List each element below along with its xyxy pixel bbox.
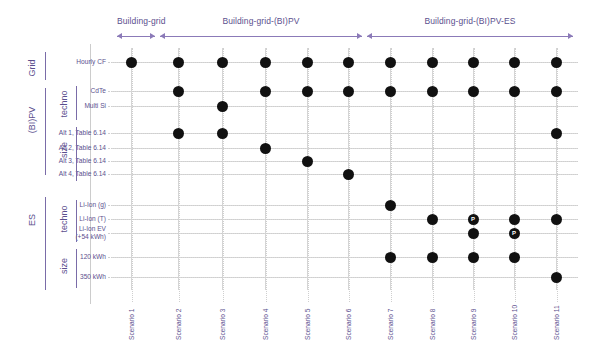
matrix-marker-dot — [385, 200, 396, 211]
row-label: CdTe — [0, 87, 106, 95]
column-label-scenario-7: Scenario 7 — [387, 308, 394, 340]
axis-sub-bipv-size: size — [59, 142, 69, 158]
axis-sub-rule — [76, 249, 77, 288]
matrix-marker-dot — [551, 214, 562, 225]
row-label: Hourly CF — [0, 58, 106, 66]
axis-sub-es-size: size — [59, 258, 69, 274]
scenario-matrix-figure: Building-gridBuilding-grid-(BI)PVBuildin… — [0, 0, 590, 347]
axis-sub-es-techno: techno — [59, 205, 69, 232]
matrix-marker-dot — [509, 252, 520, 263]
axis-group-rule — [45, 197, 46, 290]
axis-sub-rule — [76, 127, 77, 181]
axis-group-bipv: (BI)PV — [27, 107, 37, 134]
axis-sub-bipv-techno: techno — [59, 90, 69, 117]
column-label-scenario-5: Scenario 5 — [304, 308, 311, 340]
matrix-marker-p: P — [509, 228, 520, 239]
matrix-marker-dot — [427, 214, 438, 225]
matrix-marker-dot — [343, 86, 354, 97]
header-group-label-2: Building-grid-(BI)PV — [160, 16, 362, 26]
row-label: Alt 3, Table 6.14 — [0, 157, 106, 165]
column-label-scenario-11: Scenario 11 — [553, 305, 560, 340]
header-group-label-3: Building-grid-(BI)PV-ES — [367, 16, 573, 26]
matrix-marker-dot — [217, 128, 228, 139]
matrix-marker-dot — [302, 57, 313, 68]
row-label: Alt 2, Table 6.14 — [0, 144, 106, 152]
matrix-marker-p: P — [468, 214, 479, 225]
matrix-marker-dot — [217, 101, 228, 112]
column-label-scenario-6: Scenario 6 — [345, 308, 352, 340]
matrix-marker-dot — [217, 57, 228, 68]
matrix-marker-dot — [343, 169, 354, 180]
axis-group-rule — [45, 88, 46, 175]
axis-sub-rule — [76, 200, 77, 242]
header-group-label-1: Building-grid — [117, 16, 155, 26]
matrix-marker-dot — [260, 86, 271, 97]
matrix-marker-dot — [509, 86, 520, 97]
matrix-marker-dot — [260, 57, 271, 68]
matrix-marker-dot — [302, 156, 313, 167]
matrix-marker-dot — [385, 86, 396, 97]
matrix-marker-dot — [385, 252, 396, 263]
row-label: Li-Ion EV(+54 kWh) — [0, 225, 106, 241]
header-range-arrow-3 — [367, 36, 573, 37]
row-label: Alt 1, Table 6.14 — [0, 129, 106, 137]
matrix-marker-dot — [468, 228, 479, 239]
column-label-scenario-9: Scenario 9 — [470, 308, 477, 340]
column-label-scenario-8: Scenario 8 — [429, 308, 436, 340]
matrix-marker-dot — [427, 86, 438, 97]
matrix-marker-dot — [551, 57, 562, 68]
axis-group-rule — [45, 52, 46, 80]
row-label: Li-Ion (g) — [0, 201, 106, 209]
row-label: Li-Ion (T) — [0, 215, 106, 223]
matrix-marker-dot — [126, 57, 137, 68]
column-label-scenario-10: Scenario 10 — [511, 305, 518, 340]
matrix-marker-dot — [468, 86, 479, 97]
column-label-scenario-3: Scenario 3 — [219, 308, 226, 340]
row-label: 120 kWh — [0, 253, 106, 261]
matrix-marker-dot — [302, 86, 313, 97]
matrix-marker-dot — [551, 128, 562, 139]
axis-group-es: ES — [27, 214, 37, 226]
matrix-marker-dot — [260, 143, 271, 154]
matrix-marker-dot — [468, 57, 479, 68]
header-range-arrow-2 — [160, 36, 362, 37]
matrix-marker-dot — [173, 57, 184, 68]
matrix-marker-dot — [173, 128, 184, 139]
column-gridline-dotted — [132, 48, 133, 302]
matrix-marker-dot — [551, 272, 562, 283]
matrix-marker-dot — [343, 57, 354, 68]
header-range-arrow-1 — [117, 36, 155, 37]
column-label-scenario-1: Scenario 1 — [128, 308, 135, 340]
matrix-marker-dot — [427, 57, 438, 68]
column-label-scenario-2: Scenario 2 — [175, 308, 182, 340]
column-gridline-dotted — [223, 48, 224, 302]
row-label: 350 kWh — [0, 273, 106, 281]
matrix-marker-dot — [468, 252, 479, 263]
matrix-marker-dot — [385, 57, 396, 68]
matrix-marker-dot — [173, 86, 184, 97]
matrix-marker-dot — [509, 57, 520, 68]
matrix-marker-dot — [427, 252, 438, 263]
row-label: Multi Si — [0, 102, 106, 110]
row-label: Alt 4, Table 6.14 — [0, 170, 106, 178]
matrix-marker-dot — [509, 214, 520, 225]
matrix-marker-dot — [551, 86, 562, 97]
axis-group-grid: Grid — [27, 59, 37, 76]
axis-sub-rule — [76, 86, 77, 120]
column-label-scenario-4: Scenario 4 — [262, 308, 269, 340]
